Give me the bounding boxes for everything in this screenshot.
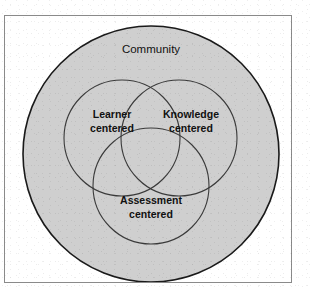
venn-diagram: Community Learner centered Knowledge cen… [5, 16, 292, 283]
figure-top-caption [0, 0, 312, 7]
assessment-centered-label-line2: centered [129, 208, 173, 220]
figure-frame: Community Learner centered Knowledge cen… [4, 15, 292, 283]
figure-page: Community Learner centered Knowledge cen… [0, 0, 312, 289]
knowledge-centered-label-line1: Knowledge [163, 108, 219, 120]
community-label: Community [122, 43, 180, 55]
learner-centered-label-line1: Learner [93, 108, 132, 120]
assessment-centered-label-line1: Assessment [120, 194, 182, 206]
learner-centered-label-line2: centered [90, 122, 134, 134]
knowledge-centered-label-line2: centered [169, 122, 213, 134]
